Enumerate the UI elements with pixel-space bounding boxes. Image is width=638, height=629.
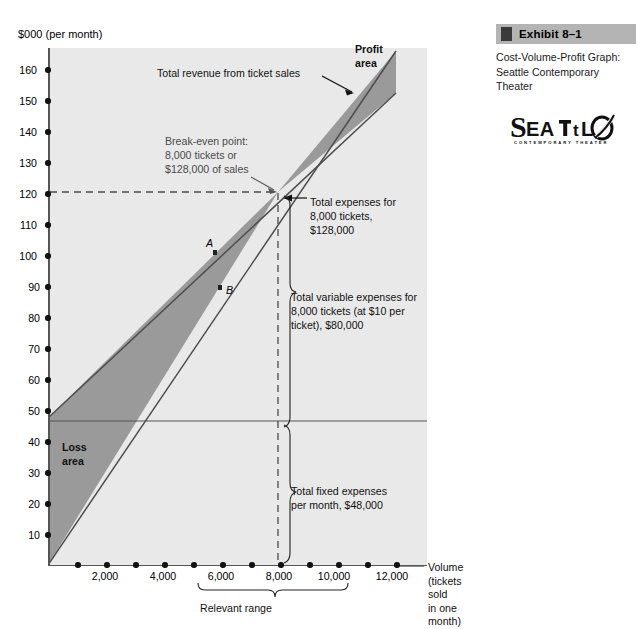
profit-area-label-line1: Profit	[355, 42, 383, 56]
y-tick-label: 60	[10, 374, 40, 386]
x-tick-dot	[249, 562, 254, 567]
y-tick-label: 40	[10, 436, 40, 448]
x-tick-label: 10,000	[311, 570, 357, 582]
x-tick-label: 6,000	[198, 570, 244, 582]
x-tick-dot	[191, 562, 196, 567]
total-expenses-annotation-line3: $128,000	[310, 223, 396, 237]
exhibit-panel: Exhibit 8–1 Cost-Volume-Profit Graph: Se…	[496, 24, 636, 151]
data-point-a-label: A	[206, 237, 213, 249]
y-tick-dot	[45, 191, 50, 196]
y-tick-dot	[45, 160, 50, 165]
relevant-range-label: Relevant range	[200, 601, 272, 615]
revenue-line-annotation: Total revenue from ticket sales	[157, 66, 300, 80]
y-tick-label: 130	[7, 157, 37, 169]
y-tick-label: 30	[10, 467, 40, 479]
y-tick-dot	[45, 98, 50, 103]
x-tick-label: 2,000	[82, 570, 128, 582]
x-tick-dot	[220, 562, 225, 567]
breakeven-annotation: Break-even point: 8,000 tickets or $128,…	[165, 134, 249, 177]
fixed-expenses-annotation-line1: Total fixed expenses	[291, 484, 387, 498]
x-axis-title-line2: in one month)	[428, 602, 470, 629]
total-expenses-annotation-line1: Total expenses for	[310, 195, 396, 209]
y-axis-line	[48, 48, 50, 566]
cvp-chart: $000 (per month)	[0, 0, 470, 623]
breakeven-annotation-line2: 8,000 tickets or	[165, 148, 249, 162]
y-tick-label: 100	[7, 250, 37, 262]
y-tick-label: 90	[10, 281, 40, 293]
logo-letters-ea: EA	[526, 118, 555, 140]
x-tick-dot	[104, 562, 109, 567]
x-tick-dot	[365, 562, 370, 567]
y-tick-dot	[45, 346, 50, 351]
data-point-b-label: B	[226, 284, 233, 296]
total-expenses-annotation-line2: 8,000 tickets,	[310, 209, 396, 223]
y-tick-dot	[45, 129, 50, 134]
breakeven-annotation-line1: Break-even point:	[165, 134, 249, 148]
x-tick-label: 12,000	[369, 570, 415, 582]
y-tick-dot	[45, 470, 50, 475]
x-tick-dot	[75, 562, 80, 567]
loss-area-label-line1: Loss	[62, 440, 87, 454]
variable-expenses-annotation-line3: ticket), $80,000	[291, 318, 417, 332]
logo-letter-s: S	[510, 110, 527, 143]
x-tick-label: 4,000	[140, 570, 186, 582]
x-tick-dot	[307, 562, 312, 567]
breakeven-annotation-line3: $128,000 of sales	[165, 162, 249, 176]
y-tick-dot	[45, 501, 50, 506]
loss-area-shape	[48, 192, 278, 565]
x-tick-dot	[278, 562, 283, 567]
data-point-a-marker	[213, 250, 218, 255]
profit-area-label-line2: area	[355, 56, 383, 70]
y-tick-label: 80	[10, 312, 40, 324]
y-tick-dot	[45, 222, 50, 227]
y-tick-dot	[45, 377, 50, 382]
y-tick-label: 110	[7, 219, 37, 231]
total-expenses-annotation: Total expenses for 8,000 tickets, $128,0…	[310, 195, 396, 238]
exhibit-caption-line2: Seattle Contemporary Theater	[496, 65, 636, 94]
exhibit-caption: Cost-Volume-Profit Graph: Seattle Contem…	[496, 50, 636, 94]
x-tick-label: 8,000	[256, 570, 302, 582]
profit-area-label: Profit area	[355, 42, 383, 70]
y-tick-label: 70	[10, 343, 40, 355]
y-tick-dot	[45, 315, 50, 320]
data-point-b-marker	[218, 285, 223, 290]
x-axis-title: Volume (tickets sold in one month)	[428, 561, 470, 629]
logo-subtitle: CONTEMPORARY THEATER	[514, 140, 608, 145]
variable-expenses-annotation: Total variable expenses for 8,000 ticket…	[291, 290, 417, 333]
y-tick-label: 50	[10, 405, 40, 417]
exhibit-header-bar: Exhibit 8–1	[496, 24, 636, 44]
y-tick-dot	[45, 284, 50, 289]
seattle-theater-logo: S EA t L CONTEMPORARY THEATER	[496, 107, 636, 151]
y-tick-dot	[45, 67, 50, 72]
y-tick-label: 150	[7, 95, 37, 107]
logo-letter-t2: t	[573, 121, 579, 140]
y-tick-dot	[45, 253, 50, 258]
x-tick-dot	[336, 562, 341, 567]
exhibit-marker-icon	[501, 27, 512, 41]
variable-expenses-annotation-line1: Total variable expenses for	[291, 290, 417, 304]
exhibit-label: Exhibit 8–1	[519, 28, 582, 40]
y-tick-label: 120	[7, 188, 37, 200]
y-tick-dot	[45, 439, 50, 444]
loss-area-label-line2: area	[62, 454, 87, 468]
revenue-callout-arrow	[322, 76, 354, 96]
y-tick-label: 160	[7, 64, 37, 76]
y-tick-dot	[45, 532, 50, 537]
logo-letter-t1-stem	[563, 120, 567, 136]
y-tick-dot	[45, 408, 50, 413]
variable-expenses-annotation-line2: 8,000 tickets (at $10 per	[291, 304, 417, 318]
fixed-expenses-annotation: Total fixed expenses per month, $48,000	[291, 484, 387, 512]
loss-area-label: Loss area	[62, 440, 87, 468]
y-tick-label: 10	[10, 529, 40, 541]
exhibit-caption-line1: Cost-Volume-Profit Graph:	[496, 50, 636, 65]
y-tick-label: 140	[7, 126, 37, 138]
x-tick-dot	[133, 562, 138, 567]
fixed-expenses-annotation-line2: per month, $48,000	[291, 498, 387, 512]
x-tick-dot	[162, 562, 167, 567]
relevant-range-brace	[198, 583, 348, 597]
x-axis-title-line1: Volume (tickets sold	[428, 561, 470, 602]
y-tick-label: 20	[10, 498, 40, 510]
x-tick-dot	[394, 562, 399, 567]
